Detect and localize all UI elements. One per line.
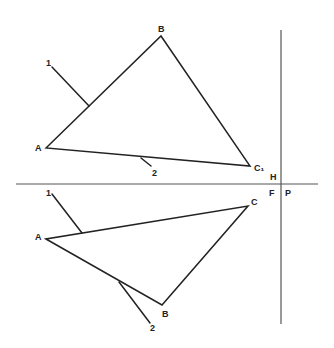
- diagram-canvas: H F P A B C₁ 1 2 A B C 1 2: [0, 0, 334, 348]
- plane-label-h: H: [270, 172, 277, 182]
- plane-label-f: F: [269, 188, 275, 198]
- line-2-front: [119, 282, 150, 323]
- plane-label-p: P: [285, 188, 291, 198]
- line-label-1-top: 1: [46, 58, 51, 68]
- vertex-label-a-top: A: [35, 143, 42, 153]
- line-label-1-front: 1: [46, 188, 51, 198]
- top-view-triangle: A B C₁ 1 2: [35, 24, 264, 178]
- line-label-2-top: 2: [152, 168, 157, 178]
- triangle-abc-front: [46, 206, 248, 305]
- line-2-top: [141, 158, 151, 166]
- front-view-triangle: A B C 1 2: [35, 188, 258, 333]
- vertex-label-c-top: C₁: [254, 163, 264, 173]
- line-label-2-front: 2: [150, 323, 155, 333]
- vertex-label-b-top: B: [158, 24, 165, 34]
- line-1-front: [52, 194, 82, 233]
- orthographic-projection-diagram: H F P A B C₁ 1 2 A B C 1 2: [0, 0, 334, 348]
- vertex-label-b-front: B: [162, 309, 169, 319]
- vertex-label-c-front: C: [251, 197, 258, 207]
- line-1-top: [52, 67, 89, 106]
- vertex-label-a-front: A: [35, 232, 42, 242]
- triangle-abc-top: [46, 36, 250, 166]
